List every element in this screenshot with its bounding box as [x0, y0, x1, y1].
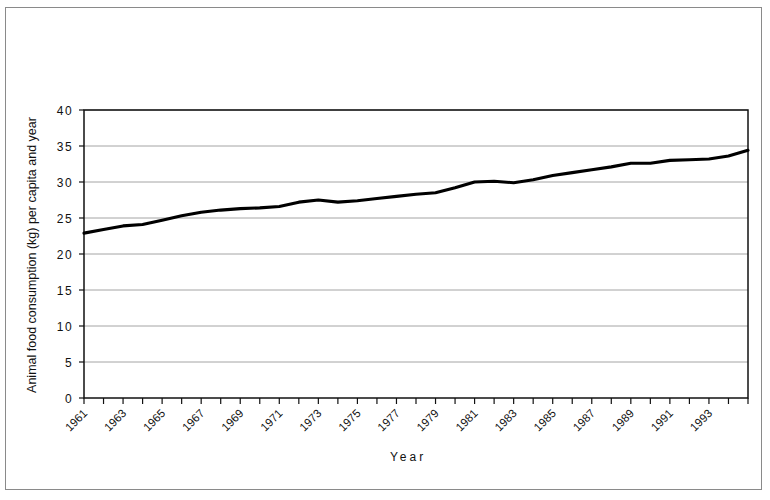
y-tick-label: 25 [57, 212, 73, 226]
x-tick-label: 1963 [102, 407, 129, 434]
chart-figure: 0510152025303540 19611963196519671969197… [0, 0, 770, 500]
x-tick-label: 1979 [414, 407, 441, 434]
x-tick-label: 1989 [610, 407, 637, 434]
y-tick-label: 40 [57, 104, 73, 118]
x-tick-label: 1967 [180, 407, 207, 434]
x-tick-label: 1969 [219, 407, 246, 434]
y-axis-title: Animal food consumption (kg) per capita … [25, 117, 39, 393]
y-tick-label: 5 [65, 356, 73, 370]
x-tick-label: 1961 [63, 407, 90, 434]
y-tick-label: 30 [57, 176, 73, 190]
x-tick-label: 1987 [571, 407, 598, 434]
line-chart-canvas: 0510152025303540 19611963196519671969197… [0, 0, 770, 500]
y-axis-tick-labels: 0510152025303540 [57, 104, 73, 406]
x-tick-label: 1993 [688, 407, 715, 434]
y-tick-label: 35 [57, 140, 73, 154]
x-tick-label: 1975 [336, 407, 363, 434]
x-tick-label: 1985 [532, 407, 559, 434]
y-tick-label: 20 [57, 248, 73, 262]
x-tick-label: 1973 [297, 407, 324, 434]
y-tick-label: 0 [65, 392, 73, 406]
data-line-animal-food-consumption [84, 150, 748, 233]
x-axis-title: Year [390, 450, 426, 464]
y-tick-label: 15 [57, 284, 73, 298]
x-tick-label: 1971 [258, 407, 285, 434]
x-tick-label: 1965 [141, 407, 168, 434]
x-tick-label: 1981 [453, 407, 480, 434]
gridlines [84, 110, 748, 362]
x-axis-tick-labels: 1961196319651967196919711973197519771979… [63, 407, 715, 434]
x-tick-label: 1991 [649, 407, 676, 434]
data-series-line [84, 150, 748, 233]
y-tick-label: 10 [57, 320, 73, 334]
x-axis-ticks [84, 398, 748, 404]
x-tick-label: 1983 [492, 407, 519, 434]
x-tick-label: 1977 [375, 407, 402, 434]
